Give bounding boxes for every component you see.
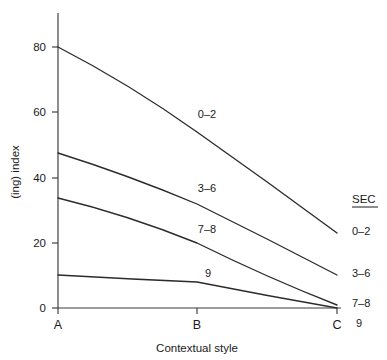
y-tick-label-20: 20: [33, 237, 46, 249]
inline-label-0-2: 0–2: [198, 108, 216, 120]
series-line-0-2: [58, 47, 337, 233]
axis-group: [58, 13, 341, 308]
y-tick-label-40: 40: [33, 172, 46, 184]
x-tick-label-c: C: [332, 318, 341, 332]
y-axis-title: (ing) index: [9, 145, 21, 199]
inline-label-7-8: 7–8: [198, 223, 216, 235]
y-tick-label-0: 0: [40, 302, 46, 314]
inline-label-group: 0–2 3–6 7–8 9: [198, 108, 216, 279]
x-tick-group: A B C: [54, 308, 342, 332]
series-group: [58, 47, 337, 308]
line-chart-plot: 80 60 40 20 0 A B C Contextual style (in…: [0, 0, 387, 360]
y-tick-group: 80 60 40 20 0: [33, 41, 58, 314]
inline-label-9: 9: [205, 267, 211, 279]
x-axis-title: Contextual style: [156, 342, 238, 354]
x-tick-label-b: B: [193, 318, 201, 332]
y-tick-label-60: 60: [33, 106, 46, 118]
series-line-7-8: [58, 198, 337, 305]
y-tick-label-80: 80: [33, 41, 46, 53]
legend-item-3-6: 3–6: [352, 267, 370, 279]
chart-figure: 80 60 40 20 0 A B C Contextual style (in…: [0, 0, 387, 360]
inline-label-3-6: 3–6: [198, 182, 216, 194]
legend-item-9: 9: [356, 317, 362, 329]
x-tick-label-a: A: [54, 318, 63, 332]
legend-item-7-8: 7–8: [352, 297, 370, 309]
legend: SEC 0–2 3–6 7–8 9: [352, 193, 378, 329]
legend-title: SEC: [352, 193, 376, 205]
series-line-3-6: [58, 153, 337, 275]
legend-item-0-2: 0–2: [352, 225, 370, 237]
series-line-9: [58, 275, 337, 308]
